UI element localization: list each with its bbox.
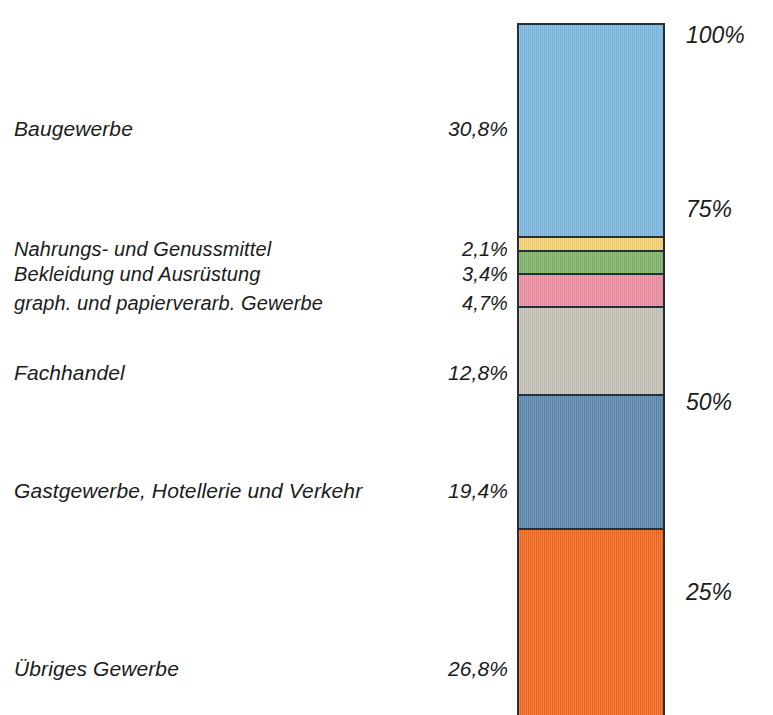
segment-category-label: Nahrungs- und Genussmittel <box>0 238 271 261</box>
segment-value-label: 3,4% <box>462 263 512 286</box>
segment-value-label: 19,4% <box>448 479 512 503</box>
segment-category-label: Übriges Gewerbe <box>0 657 179 681</box>
segment-value-label: 30,8% <box>448 117 512 141</box>
segment-category-label: Baugewerbe <box>0 117 133 141</box>
segment-value-label: 4,7% <box>462 292 512 315</box>
segment-value-label: 12,8% <box>448 361 512 385</box>
segment-label-row: Nahrungs- und Genussmittel2,1% <box>0 238 512 261</box>
segment-label-row: Gastgewerbe, Hotellerie und Verkehr19,4% <box>0 479 512 503</box>
axis-tick-label: 75% <box>686 196 732 223</box>
bar-segment <box>519 252 663 275</box>
bar-segment <box>519 275 663 307</box>
axis-tick-label: 25% <box>686 579 732 606</box>
bar-segment <box>519 25 663 238</box>
stacked-bar-chart: Baugewerbe30,8%Nahrungs- und Genussmitte… <box>0 0 773 715</box>
segment-value-label: 2,1% <box>462 238 512 261</box>
segment-label-row: Bekleidung und Ausrüstung3,4% <box>0 263 512 286</box>
segment-category-label: Gastgewerbe, Hotellerie und Verkehr <box>0 479 362 503</box>
axis-tick-label: 50% <box>686 389 732 416</box>
segment-label-row: Fachhandel12,8% <box>0 361 512 385</box>
segment-label-row: Übriges Gewerbe26,8% <box>0 657 512 681</box>
axis-tick-label: 100% <box>686 22 745 49</box>
segment-category-label: graph. und papierverarb. Gewerbe <box>0 292 323 315</box>
segment-label-row: graph. und papierverarb. Gewerbe4,7% <box>0 292 512 315</box>
bar-segment <box>519 396 663 530</box>
segment-label-row: Baugewerbe30,8% <box>0 117 512 141</box>
segment-category-label: Bekleidung und Ausrüstung <box>0 263 260 286</box>
bar-segment <box>519 530 663 715</box>
bar-segment <box>519 238 663 252</box>
segment-category-label: Fachhandel <box>0 361 125 385</box>
segment-value-label: 26,8% <box>448 657 512 681</box>
bar-segment <box>519 308 663 396</box>
stacked-bar <box>517 23 665 715</box>
